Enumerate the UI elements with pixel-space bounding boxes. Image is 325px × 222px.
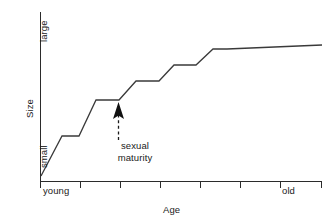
x-tick-label-old: old bbox=[282, 185, 295, 197]
sexual-maturity-arrow bbox=[113, 102, 124, 140]
x-axis-title: Age bbox=[163, 204, 180, 216]
y-tick-label-small: small bbox=[38, 145, 50, 168]
sexual-maturity-label-line2: maturity bbox=[104, 152, 166, 164]
x-tick-label-young: young bbox=[43, 185, 69, 197]
growth-curve-figure: Size large small young old Age sexual ma… bbox=[0, 0, 325, 222]
sexual-maturity-label: sexual maturity bbox=[104, 140, 166, 163]
y-axis-title: Size bbox=[24, 99, 36, 118]
growth-curve-line bbox=[41, 45, 322, 176]
y-tick-label-large: large bbox=[38, 20, 50, 42]
sexual-maturity-label-line1: sexual bbox=[104, 140, 166, 152]
